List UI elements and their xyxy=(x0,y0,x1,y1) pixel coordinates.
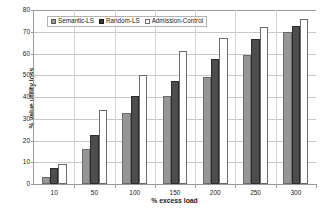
category-divider xyxy=(115,10,116,184)
legend-label: Semantic-LS xyxy=(58,18,94,24)
bar-semantic-ls-100 xyxy=(122,113,130,184)
bar-random-ls-100 xyxy=(131,96,139,184)
legend-swatch-icon xyxy=(145,19,150,24)
bar-random-ls-250 xyxy=(251,39,259,184)
bar-semantic-ls-200 xyxy=(203,77,211,184)
y-tick-label: 20 xyxy=(23,137,30,144)
bar-admission-control-150 xyxy=(179,51,187,184)
bar-random-ls-150 xyxy=(171,81,179,184)
bar-random-ls-50 xyxy=(90,135,98,184)
y-tick-label: 50 xyxy=(23,72,30,79)
x-tick-mark xyxy=(195,184,196,188)
x-axis-label: % excess load xyxy=(33,197,316,204)
bar-random-ls-200 xyxy=(211,59,219,184)
bar-semantic-ls-250 xyxy=(243,55,251,184)
y-tick-mark-0 xyxy=(31,184,34,185)
plot-area: 010203040506070801050100150200250300 xyxy=(33,10,316,185)
x-tick-label: 300 xyxy=(290,190,301,197)
y-tick-label: 0 xyxy=(26,181,30,188)
category-divider xyxy=(74,10,75,184)
y-tick-mark-20 xyxy=(31,141,34,142)
y-tick-mark-10 xyxy=(31,162,34,163)
legend-entry-admission-control: Admission-Control xyxy=(145,18,203,24)
y-tick-label: 40 xyxy=(23,94,30,101)
bar-admission-control-10 xyxy=(58,164,66,184)
legend-swatch-icon xyxy=(99,19,104,24)
category-divider xyxy=(155,10,156,184)
legend-swatch-icon xyxy=(51,19,56,24)
category-divider xyxy=(235,10,236,184)
bar-random-ls-10 xyxy=(50,168,58,184)
category-divider xyxy=(195,10,196,184)
y-tick-mark-70 xyxy=(31,32,34,33)
y-tick-mark-40 xyxy=(31,97,34,98)
y-tick-label: 80 xyxy=(23,7,30,14)
bar-admission-control-250 xyxy=(260,27,268,184)
x-tick-label: 100 xyxy=(129,190,140,197)
y-tick-mark-30 xyxy=(31,119,34,120)
bar-semantic-ls-50 xyxy=(82,149,90,184)
x-tick-mark xyxy=(155,184,156,188)
legend-label: Admission-Control xyxy=(152,18,203,24)
caption-sliver xyxy=(8,207,308,215)
y-tick-label: 60 xyxy=(23,50,30,57)
bar-random-ls-300 xyxy=(292,26,300,184)
legend-entry-random-ls: Random-LS xyxy=(99,18,140,24)
bar-admission-control-300 xyxy=(300,19,308,184)
bar-semantic-ls-150 xyxy=(163,96,171,184)
gridline-70 xyxy=(34,32,316,33)
legend-entry-semantic-ls: Semantic-LS xyxy=(51,18,94,24)
y-tick-label: 70 xyxy=(23,29,30,36)
x-tick-mark xyxy=(276,184,277,188)
chart-legend: Semantic-LSRandom-LSAdmission-Control xyxy=(47,16,207,27)
x-tick-label: 10 xyxy=(51,190,58,197)
y-tick-label: 10 xyxy=(23,159,30,166)
gridline-80 xyxy=(34,10,316,11)
bar-admission-control-100 xyxy=(139,75,147,184)
y-tick-label: 30 xyxy=(23,116,30,123)
y-tick-mark-60 xyxy=(31,54,34,55)
bar-semantic-ls-10 xyxy=(42,177,50,184)
x-tick-mark xyxy=(235,184,236,188)
x-tick-label: 200 xyxy=(210,190,221,197)
legend-label: Random-LS xyxy=(106,18,140,24)
bar-admission-control-50 xyxy=(99,110,107,184)
category-divider xyxy=(276,10,277,184)
y-tick-mark-50 xyxy=(31,75,34,76)
x-tick-label: 250 xyxy=(250,190,261,197)
x-tick-label: 150 xyxy=(170,190,181,197)
bar-semantic-ls-300 xyxy=(283,32,291,184)
x-tick-mark xyxy=(115,184,116,188)
x-tick-label: 50 xyxy=(91,190,98,197)
bar-admission-control-200 xyxy=(219,38,227,184)
x-tick-mark xyxy=(74,184,75,188)
x-tick-mark xyxy=(316,184,317,188)
gridline-60 xyxy=(34,54,316,55)
y-axis-label-container: % value utility loss xyxy=(0,10,14,185)
y-tick-mark-80 xyxy=(31,10,34,11)
chart-figure: % value utility loss 0102030405060708010… xyxy=(0,0,322,215)
gridline-50 xyxy=(34,75,316,76)
